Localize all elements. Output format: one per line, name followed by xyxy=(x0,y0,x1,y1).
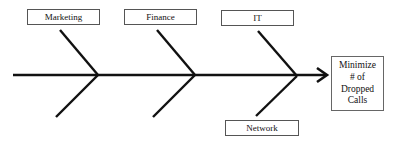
bone-network xyxy=(256,76,297,116)
bone-finance xyxy=(157,30,195,75)
bone-lower-2 xyxy=(153,75,195,117)
effect-line-2: # of xyxy=(350,72,365,84)
bone-lower-1 xyxy=(56,75,98,117)
effect-line-4: Calls xyxy=(348,95,368,107)
effect-line-1: Minimize xyxy=(339,60,376,72)
cause-box-it: IT xyxy=(221,10,294,26)
bone-marketing xyxy=(60,30,98,75)
bone-it xyxy=(258,31,297,76)
cause-box-network: Network xyxy=(225,120,299,136)
cause-box-marketing: Marketing xyxy=(27,9,100,25)
cause-label-it: IT xyxy=(253,14,262,23)
cause-label-network: Network xyxy=(246,124,278,133)
cause-label-finance: Finance xyxy=(146,13,175,22)
cause-label-marketing: Marketing xyxy=(45,13,83,22)
effect-line-3: Dropped xyxy=(341,84,374,96)
cause-box-finance: Finance xyxy=(124,9,197,25)
effect-box: Minimize # of Dropped Calls xyxy=(331,56,384,111)
